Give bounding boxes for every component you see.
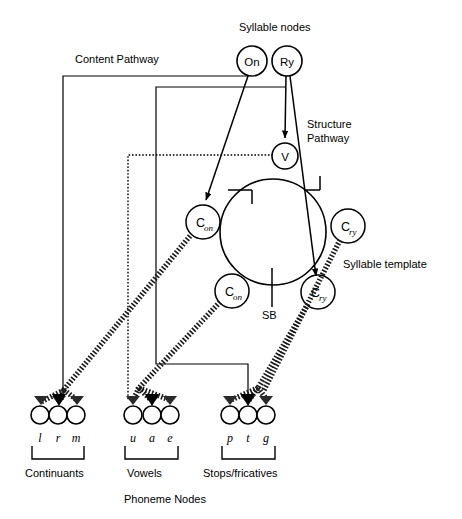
- phoneme-node-r[interactable]: [49, 406, 67, 424]
- phoneme-symbol-t: t: [246, 431, 250, 445]
- phoneme-symbol-p: p: [226, 431, 233, 445]
- head-continuant-r: [70, 396, 84, 405]
- vowel-slot-node-v[interactable]: V: [272, 143, 298, 169]
- phoneme-symbol-a: a: [149, 431, 155, 445]
- phoneme-symbol-g: g: [263, 431, 269, 445]
- label-structure-pathway-line1: Structure: [307, 118, 352, 131]
- syllable-node-ry-label: Ry: [280, 56, 294, 68]
- phoneme-symbol-u: u: [130, 431, 136, 445]
- phoneme-symbol-e: e: [167, 431, 173, 445]
- group-label-stops-fricatives: Stops/fricatives: [203, 467, 278, 480]
- syllable-node-on-label: On: [244, 56, 259, 68]
- bracket-continuants: [32, 446, 84, 459]
- phoneme-symbol-m: m: [72, 431, 81, 445]
- syllable-node-on[interactable]: On: [237, 46, 267, 76]
- bracket-stops-fricatives: [222, 446, 275, 459]
- phoneme-symbol-r: r: [56, 431, 61, 445]
- phoneme-node-m[interactable]: [67, 406, 85, 424]
- arrow-on-to-c-on-upper: [206, 76, 248, 200]
- syllable-node-ry[interactable]: Ry: [272, 46, 302, 76]
- template-slot-c-ry-upper-subscript: ry: [349, 227, 357, 237]
- label-syllable-template: Syllable template: [343, 258, 427, 271]
- head-stop-p: [223, 396, 237, 405]
- bracket-vowels: [125, 446, 178, 459]
- template-slot-c-on-lower-subscript: on: [233, 292, 243, 302]
- label-phoneme-nodes: Phoneme Nodes: [124, 493, 206, 506]
- phoneme-group-brackets: [32, 446, 275, 459]
- phoneme-node-l[interactable]: [31, 406, 49, 424]
- hatched-c-on-lower-to-vowels: [137, 302, 220, 390]
- arrow-ry-to-c-ry-lower: [290, 76, 316, 276]
- template-slot-c-ry-lower-subscript: ry: [319, 293, 327, 303]
- phoneme-symbol-l: l: [38, 431, 42, 445]
- label-content-pathway: Content Pathway: [75, 53, 159, 66]
- solid-head-continuant-r: [52, 394, 66, 406]
- phoneme-node-a[interactable]: [143, 406, 161, 424]
- arrow-ry-to-v: [285, 76, 286, 138]
- group-label-continuants: Continuants: [25, 467, 84, 480]
- syllable-network-diagram: On Ry V C on C ry C: [0, 0, 462, 519]
- template-slot-c-on-upper[interactable]: C on: [186, 205, 220, 239]
- tick-onset-left: [228, 190, 252, 204]
- label-syllable-nodes: Syllable nodes: [239, 21, 311, 34]
- tick-rhyme-right: [304, 176, 320, 190]
- label-structure-pathway-line2: Pathway: [307, 132, 349, 145]
- phoneme-node-p[interactable]: [221, 406, 239, 424]
- phoneme-node-e[interactable]: [161, 406, 179, 424]
- hatched-c-on-to-continuants: [62, 236, 190, 392]
- phoneme-node-circles: [31, 406, 275, 424]
- head-vowel-e: [163, 396, 177, 405]
- head-vowel-u: [126, 396, 140, 405]
- phoneme-node-g[interactable]: [257, 406, 275, 424]
- label-syllable-boundary: SB: [262, 309, 277, 322]
- group-label-vowels: Vowels: [127, 467, 162, 480]
- phoneme-symbols: l r m u a e p t g: [38, 431, 269, 445]
- selected-phoneme-arrowheads: [52, 394, 255, 406]
- template-slot-c-ry-upper[interactable]: C ry: [331, 209, 365, 243]
- template-slot-c-on-upper-subscript: on: [204, 223, 214, 233]
- hatched-connections: [41, 236, 340, 402]
- vowel-slot-node-v-label: V: [281, 151, 289, 163]
- solid-head-vowel-a: [145, 394, 159, 406]
- solid-head-stop-t: [241, 394, 255, 406]
- head-stop-g: [259, 396, 273, 405]
- phoneme-node-t[interactable]: [239, 406, 257, 424]
- phoneme-node-u[interactable]: [124, 406, 142, 424]
